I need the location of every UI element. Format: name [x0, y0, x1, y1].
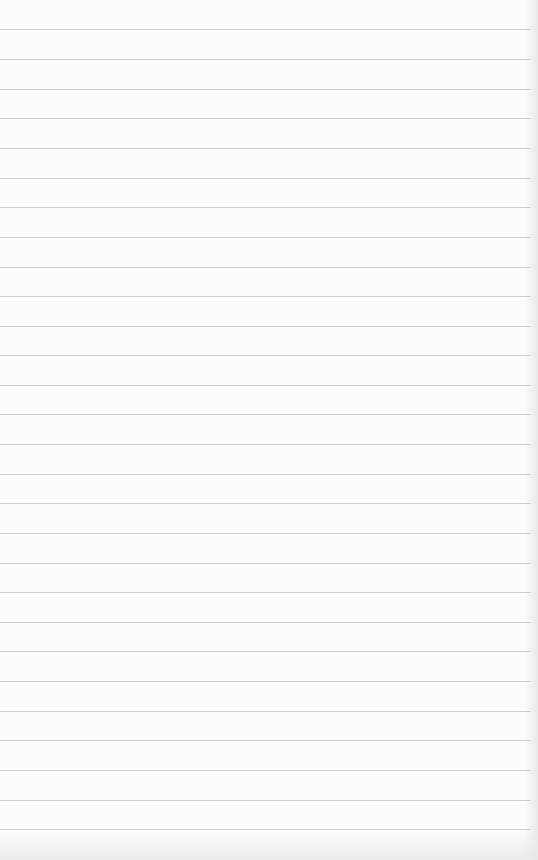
ruled-line — [0, 89, 531, 90]
ruled-line — [0, 563, 531, 564]
ruled-line — [0, 207, 531, 208]
ruled-line — [0, 800, 531, 801]
ruled-line — [0, 385, 531, 386]
notepaper-page — [0, 0, 538, 860]
ruled-line — [0, 178, 531, 179]
ruled-line — [0, 237, 531, 238]
ruled-line — [0, 711, 531, 712]
ruled-line — [0, 740, 531, 741]
paper-edge-shadow-bottom — [0, 830, 538, 860]
ruled-line — [0, 355, 531, 356]
ruled-line — [0, 533, 531, 534]
ruled-line — [0, 681, 531, 682]
ruled-line — [0, 444, 531, 445]
ruled-line — [0, 622, 531, 623]
ruled-line — [0, 326, 531, 327]
paper-edge-shadow-right — [524, 0, 538, 860]
ruled-line — [0, 414, 531, 415]
ruled-line — [0, 267, 531, 268]
ruled-line — [0, 59, 531, 60]
ruled-line — [0, 829, 531, 830]
ruled-line — [0, 29, 531, 30]
ruled-line — [0, 296, 531, 297]
ruled-line — [0, 503, 531, 504]
ruled-line — [0, 770, 531, 771]
bleed-through-text — [4, 2, 524, 16]
ruled-line — [0, 651, 531, 652]
ruled-line — [0, 118, 531, 119]
ruled-line — [0, 148, 531, 149]
ruled-line — [0, 592, 531, 593]
ruled-line — [0, 474, 531, 475]
